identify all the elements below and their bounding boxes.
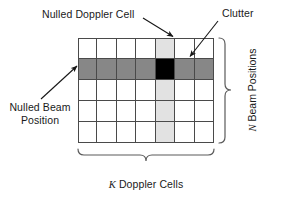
- leader-line-nulled-doppler-cell: [143, 18, 173, 37]
- label-clutter: Clutter: [222, 7, 254, 20]
- leader-line-clutter: [190, 21, 218, 57]
- brace-beam-positions: [219, 38, 231, 143]
- label-doppler-cells-text: Doppler Cells: [116, 178, 183, 190]
- label-nulled-doppler-cell: Nulled Doppler Cell: [42, 8, 134, 21]
- label-beam-positions-text: Beam Positions: [246, 49, 258, 125]
- brace-doppler-cells: [78, 149, 214, 161]
- label-nulled-beam-position-line1: Nulled Beam: [9, 101, 70, 113]
- label-beam-positions-axis: N Beam Positions: [246, 49, 258, 132]
- leader-line-nulled-beam-position: [41, 66, 77, 99]
- label-nulled-beam-position-line2: Position: [4, 114, 76, 127]
- diagram-canvas: Nulled Doppler Cell Clutter Nulled Beam …: [0, 0, 285, 205]
- label-doppler-cells-axis: K Doppler Cells: [109, 178, 183, 192]
- label-nulled-beam-position: Nulled Beam Position: [4, 101, 76, 126]
- symbol-N: N: [247, 124, 258, 131]
